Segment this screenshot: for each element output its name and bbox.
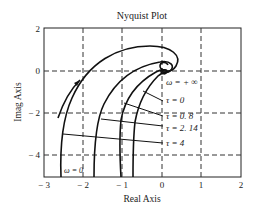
x-tick-labels: − 3 − 2 − 1 0 1 2 xyxy=(38,180,243,190)
x-tick-label: − 2 xyxy=(77,180,89,190)
x-tick-label: − 3 xyxy=(38,180,50,190)
x-tick-label: 2 xyxy=(239,180,244,190)
y-axis-label: Imag Axis xyxy=(13,82,23,122)
curve-tau-4 xyxy=(61,46,178,177)
annotation-tau-0-8: τ = 0. 8 xyxy=(166,111,194,121)
x-tick-label: 1 xyxy=(199,180,204,190)
nyquist-chart: Nyquist Plot ω = + ∞ τ = 0 τ = 0. 8 τ = xyxy=(0,0,257,215)
annotation-tau-0: τ = 0 xyxy=(166,95,185,105)
x-tick-label: − 1 xyxy=(116,180,128,190)
y-tick-label: − 2 xyxy=(28,108,40,118)
y-tick-labels: 2 0 − 2 − 4 xyxy=(28,24,40,160)
y-tick-label: 2 xyxy=(36,24,41,34)
x-tick-label: 0 xyxy=(160,180,165,190)
annotation-omega-inf: ω = + ∞ xyxy=(166,77,198,87)
nyquist-curves xyxy=(58,46,178,177)
chart-title: Nyquist Plot xyxy=(117,10,168,21)
y-tick-label: 0 xyxy=(36,66,41,76)
y-tick-label: − 4 xyxy=(28,150,40,160)
annotation-tau-2-14: τ = 2. 14 xyxy=(166,123,198,133)
annotation-tau-4: τ = 4 xyxy=(166,138,185,148)
grid xyxy=(44,28,241,177)
x-axis-label: Real Axis xyxy=(123,194,161,204)
annotation-omega-0: ω = 0 xyxy=(64,166,83,175)
leader-lines xyxy=(63,91,163,143)
